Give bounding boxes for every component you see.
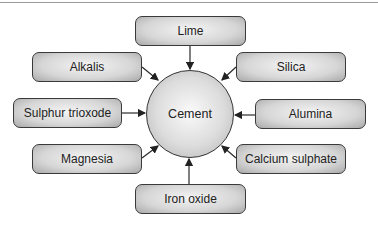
iron-oxide-node: Iron oxide	[135, 184, 246, 214]
arrow-alkalis	[142, 67, 158, 80]
magnesia-node: Magnesia	[32, 144, 142, 174]
lime-label: Lime	[177, 24, 203, 38]
alumina-label: Alumina	[289, 107, 332, 121]
arrow-silica	[222, 67, 236, 80]
magnesia-label: Magnesia	[61, 152, 113, 166]
sulphur-trioxode-label: Sulphur trioxode	[24, 106, 111, 120]
calcium-sulphate-node: Calcium sulphate	[236, 144, 346, 174]
alumina-node: Alumina	[255, 99, 366, 129]
alkalis-label: Alkalis	[70, 60, 105, 74]
iron-oxide-label: Iron oxide	[164, 192, 217, 206]
cement-label: Cement	[168, 107, 212, 121]
silica-label: Silica	[277, 60, 306, 74]
silica-node: Silica	[236, 52, 346, 82]
alkalis-node: Alkalis	[32, 52, 142, 82]
cement-center-node: Cement	[146, 70, 234, 158]
arrow-calcium-sulphate	[222, 146, 236, 158]
sulphur-trioxode-node: Sulphur trioxode	[13, 98, 122, 128]
lime-node: Lime	[135, 16, 246, 46]
calcium-sulphate-label: Calcium sulphate	[245, 152, 337, 166]
arrow-magnesia	[142, 146, 158, 158]
